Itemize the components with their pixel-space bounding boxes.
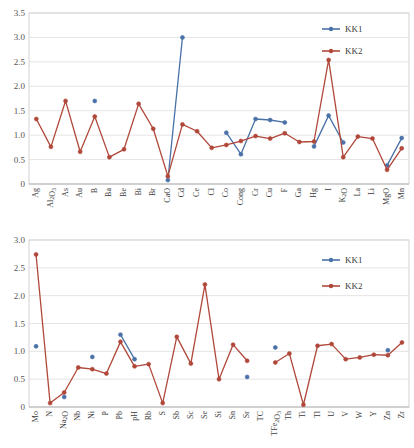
data-point-kk2 <box>273 360 277 364</box>
data-point-kk1 <box>327 114 331 118</box>
x-axis-category-label: Ga <box>294 188 303 198</box>
y-axis-tick-label: 0.5 <box>14 374 26 384</box>
x-axis-category-label: MgO <box>382 188 391 205</box>
data-point-kk2 <box>330 342 334 346</box>
x-axis-category-label: N <box>45 411 54 417</box>
data-point-kk2 <box>356 135 360 139</box>
data-point-kk1 <box>90 355 94 359</box>
legend-label-kk1[interactable]: KK1 <box>345 255 363 265</box>
x-axis-category-label: TFe2O3 <box>270 411 282 436</box>
data-point-kk2 <box>133 364 137 368</box>
chart-top-container: 00.51.01.52.02.53.03.5AgAl2O3AsAuBBaBeBi… <box>0 0 414 224</box>
data-point-kk1 <box>400 136 404 140</box>
data-point-kk2 <box>104 372 108 376</box>
legend-label-kk2[interactable]: KK2 <box>345 281 363 291</box>
data-point-kk2 <box>301 403 305 407</box>
x-axis-category-label: Ni <box>87 410 96 419</box>
x-axis-category-label: Be <box>119 188 128 197</box>
data-point-kk2 <box>312 139 316 143</box>
data-point-kk1 <box>268 118 272 122</box>
x-axis-category-label: Na2O <box>59 411 70 429</box>
data-point-kk2 <box>118 340 122 344</box>
x-axis-category-label: V <box>340 411 349 417</box>
data-point-kk1 <box>34 344 38 348</box>
data-point-kk1 <box>273 345 277 349</box>
data-point-kk2 <box>385 168 389 172</box>
data-point-kk2 <box>316 344 320 348</box>
data-point-kk2 <box>283 131 287 135</box>
x-axis-category-label: La <box>353 188 362 197</box>
legend-marker-kk2 <box>329 49 333 53</box>
data-point-kk2 <box>151 127 155 131</box>
x-axis-category-label: U <box>326 411 335 417</box>
x-axis-category-label: TC <box>256 411 265 421</box>
x-axis-category-label: Si <box>214 410 223 417</box>
data-point-kk2 <box>203 283 207 287</box>
x-axis-category-label: Hg <box>309 188 318 198</box>
data-point-kk2 <box>78 150 82 154</box>
x-axis-category-label: Th <box>284 411 293 420</box>
data-point-kk2 <box>64 99 68 103</box>
data-point-kk2 <box>386 353 390 357</box>
data-point-kk2 <box>166 174 170 178</box>
data-point-kk2 <box>34 252 38 256</box>
chart-bottom-container: 00.51.01.52.02.53.0MoNNa2ONbNiPPbpHRbSSb… <box>0 224 414 448</box>
y-axis-tick-label: 3.0 <box>14 32 26 42</box>
data-point-kk2 <box>231 343 235 347</box>
x-axis-category-label: Ag <box>31 188 40 198</box>
data-point-kk1 <box>254 117 258 121</box>
line-chart-top: 00.51.01.52.02.53.03.5AgAl2O3AsAuBBaBeBi… <box>0 0 414 224</box>
data-point-kk2 <box>400 146 404 150</box>
x-axis-category-label: P <box>101 410 110 415</box>
x-axis-category-label: Zr <box>397 411 406 419</box>
x-axis-category-label: B <box>90 188 99 193</box>
data-point-kk1 <box>239 152 243 156</box>
data-point-kk2 <box>161 401 165 405</box>
x-axis-category-label: Zn <box>383 411 392 420</box>
data-point-kk2 <box>327 58 331 62</box>
x-axis-category-label: K2O <box>338 188 349 203</box>
data-point-kk1 <box>312 144 316 148</box>
data-point-kk2 <box>217 377 221 381</box>
data-point-kk2 <box>93 115 97 119</box>
data-point-kk2 <box>297 140 301 144</box>
legend-label-kk2[interactable]: KK2 <box>345 46 363 56</box>
x-axis-category-label: Tl <box>312 410 321 418</box>
x-axis-category-label: Ba <box>104 188 113 197</box>
data-point-kk2 <box>344 357 348 361</box>
data-point-kk2 <box>254 134 258 138</box>
data-point-kk2 <box>147 362 151 366</box>
x-axis-category-label: CaO <box>163 188 172 203</box>
data-point-kk2 <box>287 352 291 356</box>
x-axis-category-label: Sr <box>242 411 251 418</box>
x-axis-category-label: Mo <box>31 411 40 422</box>
x-axis-category-label: Mn <box>397 188 406 199</box>
data-point-kk2 <box>180 122 184 126</box>
x-axis-category-label: S <box>158 411 167 415</box>
data-point-kk2 <box>224 143 228 147</box>
data-point-kk1 <box>283 120 287 124</box>
y-axis-tick-label: 1.0 <box>14 130 26 140</box>
data-point-kk2 <box>358 355 362 359</box>
data-point-kk2 <box>245 359 249 363</box>
legend-marker-kk1 <box>329 258 333 262</box>
x-axis-category-label: Nb <box>73 411 82 421</box>
x-axis-category-label: Ce <box>192 188 201 197</box>
x-axis-category-label: Cl <box>207 187 216 195</box>
x-axis-category-label: Y <box>369 411 378 417</box>
x-axis-category-label: Br <box>148 188 157 196</box>
data-point-kk1 <box>180 35 184 39</box>
legend-label-kk1[interactable]: KK1 <box>345 24 363 34</box>
data-point-kk2 <box>107 155 111 159</box>
line-chart-bottom: 00.51.01.52.02.53.0MoNNa2ONbNiPPbpHRbSSb… <box>0 224 414 448</box>
data-point-kk1 <box>386 348 390 352</box>
y-axis-tick-label: 3.0 <box>14 235 26 245</box>
x-axis-category-label: I <box>323 188 332 191</box>
x-axis-category-label: Rb <box>143 411 152 420</box>
data-point-kk1 <box>245 375 249 379</box>
data-point-kk2 <box>122 147 126 151</box>
y-axis-tick-label: 0 <box>21 402 26 412</box>
x-axis-category-label: Bi <box>133 187 142 195</box>
x-axis-category-label: Pb <box>115 411 124 419</box>
x-axis-category-label: Se <box>200 411 209 419</box>
